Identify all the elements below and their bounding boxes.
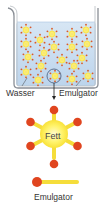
label-emulsifier-bottom: Emulgator — [34, 192, 73, 202]
emulsion-diagram: Wasser Emulgator Fett Emulgator — [0, 0, 108, 206]
label-water: Wasser — [6, 88, 35, 98]
emulsifier-molecule — [32, 177, 79, 187]
diagram-graphic — [0, 0, 108, 206]
label-emulsifier-top: Emulgator — [59, 88, 98, 98]
emulsifier-head — [32, 177, 42, 187]
label-fat: Fett — [45, 131, 61, 141]
